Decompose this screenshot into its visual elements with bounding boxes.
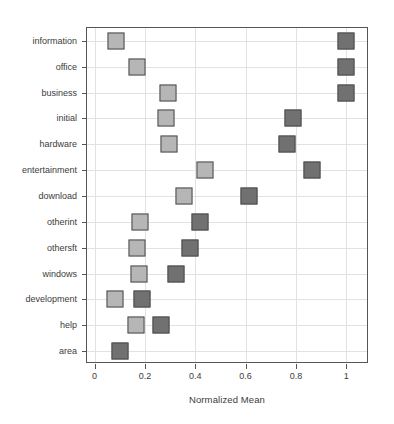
y-tick-mark	[82, 248, 87, 249]
data-point-marker	[130, 265, 147, 282]
x-tick-label: 1	[344, 371, 349, 381]
plot-area: informationofficebusinessinitialhardware…	[86, 27, 368, 363]
y-tick-label-entertainment: entertainment	[22, 165, 77, 175]
data-point-marker	[158, 110, 175, 127]
y-tick-mark	[82, 299, 87, 300]
data-point-marker	[241, 188, 258, 205]
x-tick-label: 0.6	[239, 371, 252, 381]
scatter-chart-figure: informationofficebusinessinitialhardware…	[0, 0, 394, 424]
x-tick-label: 0	[92, 371, 97, 381]
gridline-vertical	[195, 28, 196, 362]
data-point-marker	[285, 110, 302, 127]
data-point-marker	[131, 213, 148, 230]
data-point-marker	[129, 58, 146, 75]
gridline-horizontal	[87, 222, 367, 223]
y-tick-label-hardware: hardware	[39, 139, 77, 149]
gridline-horizontal	[87, 41, 367, 42]
y-tick-mark	[82, 93, 87, 94]
data-point-marker	[192, 213, 209, 230]
y-tick-label-area: area	[59, 346, 77, 356]
x-tick-label: 0.8	[290, 371, 303, 381]
y-tick-label-otherint: otherint	[47, 217, 77, 227]
y-tick-mark	[82, 351, 87, 352]
gridline-horizontal	[87, 299, 367, 300]
data-point-marker	[304, 162, 321, 179]
data-point-marker	[106, 291, 123, 308]
x-tick-mark	[346, 364, 347, 369]
data-point-marker	[111, 343, 128, 360]
gridline-horizontal	[87, 93, 367, 94]
data-point-marker	[107, 32, 124, 49]
y-tick-mark	[82, 41, 87, 42]
y-tick-label-download: download	[38, 191, 77, 201]
x-tick-mark	[246, 364, 247, 369]
gridline-vertical	[145, 28, 146, 362]
y-tick-mark	[82, 325, 87, 326]
gridline-vertical	[95, 28, 96, 362]
y-tick-mark	[82, 67, 87, 68]
y-tick-label-windows: windows	[42, 269, 77, 279]
data-point-marker	[338, 84, 355, 101]
data-point-marker	[279, 136, 296, 153]
data-point-marker	[128, 317, 145, 334]
y-tick-mark	[82, 170, 87, 171]
y-tick-label-office: office	[56, 62, 77, 72]
gridline-horizontal	[87, 144, 367, 145]
y-tick-label-initial: initial	[56, 113, 77, 123]
y-tick-label-information: information	[32, 36, 77, 46]
data-point-marker	[175, 188, 192, 205]
gridline-horizontal	[87, 170, 367, 171]
y-tick-label-business: business	[41, 88, 77, 98]
data-point-marker	[160, 136, 177, 153]
y-tick-label-development: development	[25, 294, 77, 304]
y-tick-label-othersft: othersft	[47, 243, 77, 253]
gridline-vertical	[296, 28, 297, 362]
x-tick-mark	[195, 364, 196, 369]
data-point-marker	[182, 239, 199, 256]
data-point-marker	[153, 317, 170, 334]
data-point-marker	[168, 265, 185, 282]
x-tick-mark	[145, 364, 146, 369]
data-point-marker	[338, 32, 355, 49]
gridline-vertical	[346, 28, 347, 362]
data-point-marker	[134, 291, 151, 308]
x-tick-label: 0.2	[139, 371, 152, 381]
data-point-marker	[197, 162, 214, 179]
x-tick-mark	[296, 364, 297, 369]
gridline-horizontal	[87, 351, 367, 352]
data-point-marker	[159, 84, 176, 101]
y-tick-mark	[82, 118, 87, 119]
y-tick-mark	[82, 144, 87, 145]
x-tick-label: 0.4	[189, 371, 202, 381]
gridline-horizontal	[87, 274, 367, 275]
y-tick-label-help: help	[60, 320, 77, 330]
y-tick-mark	[82, 274, 87, 275]
x-tick-mark	[95, 364, 96, 369]
y-tick-mark	[82, 222, 87, 223]
data-point-marker	[129, 239, 146, 256]
data-point-marker	[338, 58, 355, 75]
gridline-horizontal	[87, 118, 367, 119]
gridline-horizontal	[87, 196, 367, 197]
y-tick-mark	[82, 196, 87, 197]
x-axis-title: Normalized Mean	[86, 394, 368, 405]
